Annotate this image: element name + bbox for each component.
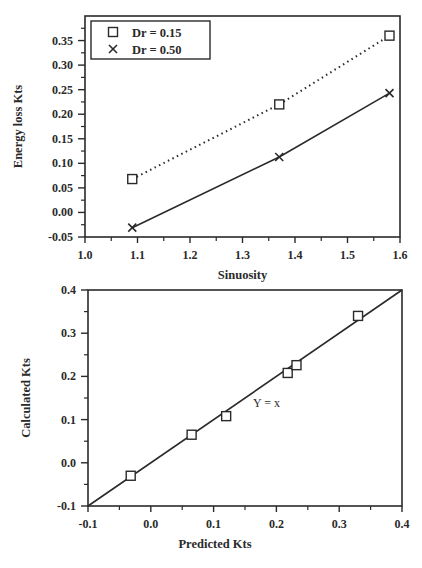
x-tick-label: 1.1	[130, 248, 145, 262]
x-axis-label: Predicted Kts	[178, 537, 251, 551]
square-marker	[354, 311, 363, 320]
square-marker	[109, 28, 118, 37]
x-tick-label: 1.3	[235, 248, 250, 262]
y-tick-label: 0.05	[52, 181, 73, 195]
y-tick-label: -0.05	[48, 230, 73, 244]
square-marker	[275, 100, 284, 109]
y-tick-label: 0.35	[52, 34, 73, 48]
y-tick-label: 0.0	[61, 456, 76, 470]
y-axis-label: Energy loss Kts	[11, 85, 25, 168]
y-tick-label: 0.4	[61, 283, 76, 297]
y-tick-label: 0.25	[52, 83, 73, 97]
y-tick-label: 0.1	[61, 413, 76, 427]
square-marker	[385, 31, 394, 40]
square-marker	[187, 430, 196, 439]
y-tick-label: 0.00	[52, 205, 73, 219]
y-tick-label: 0.2	[61, 369, 76, 383]
energy-loss-chart: 1.01.11.21.31.41.51.6-0.050.000.050.100.…	[11, 16, 408, 282]
x-tick-label: 0.2	[269, 517, 284, 531]
x-tick-label: 1.4	[288, 248, 303, 262]
x-tick-label: 1.5	[340, 248, 355, 262]
x-tick-label: 1.2	[183, 248, 198, 262]
y-tick-label: 0.3	[61, 326, 76, 340]
x-tick-label: 0.3	[332, 517, 347, 531]
x-tick-label: 0.4	[395, 517, 410, 531]
legend-label: Dr = 0.15	[132, 26, 182, 40]
x-axis-label: Sinuosity	[218, 268, 268, 282]
y-tick-label: 0.15	[52, 132, 73, 146]
square-marker	[222, 412, 231, 421]
identity-annotation: Y = x	[253, 396, 280, 410]
y-tick-label: 0.30	[52, 58, 73, 72]
square-marker	[283, 368, 292, 377]
x-tick-label: 1.6	[393, 248, 408, 262]
y-tick-label: -0.1	[57, 499, 76, 513]
x-tick-label: -0.1	[79, 517, 98, 531]
calculated-vs-predicted-chart: -0.10.00.10.20.30.4-0.10.00.10.20.30.4Pr…	[19, 283, 410, 551]
x-marker	[275, 153, 283, 161]
x-tick-label: 0.0	[143, 517, 158, 531]
square-marker	[292, 361, 301, 370]
y-axis-label: Calculated Kts	[19, 358, 33, 438]
y-tick-label: 0.20	[52, 107, 73, 121]
square-marker	[128, 175, 137, 184]
legend: Dr = 0.15Dr = 0.50	[91, 21, 210, 59]
square-marker	[126, 471, 135, 480]
legend-label: Dr = 0.50	[132, 43, 182, 57]
x-marker	[128, 224, 136, 232]
x-tick-label: 0.1	[206, 517, 221, 531]
figure: 1.01.11.21.31.41.51.6-0.050.000.050.100.…	[0, 0, 422, 568]
y-tick-label: 0.10	[52, 156, 73, 170]
x-tick-label: 1.0	[78, 248, 93, 262]
dr050-line	[132, 93, 389, 228]
x-marker	[386, 89, 394, 97]
